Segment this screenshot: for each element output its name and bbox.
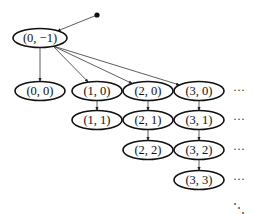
node-label: (0, 0) bbox=[26, 84, 53, 98]
node-label: (1, 0) bbox=[83, 84, 110, 98]
tree-diagram: (0, −1)(0, 0)(1, 0)(2, 0)(3, 0)(1, 1)(2,… bbox=[0, 0, 254, 214]
nodes: (0, −1)(0, 0)(1, 0)(2, 0)(3, 0)(1, 1)(2,… bbox=[13, 12, 224, 189]
edge-start-n0m1 bbox=[57, 15, 97, 31]
node-label: (2, 1) bbox=[134, 113, 161, 127]
diagonal-ellipsis: ⋱ bbox=[233, 201, 245, 214]
node-label: (2, 0) bbox=[134, 84, 161, 98]
tree-node: (3, 1) bbox=[174, 111, 224, 130]
edge-n0m1-n20 bbox=[53, 46, 132, 84]
tree-node: (1, 1) bbox=[72, 111, 122, 130]
node-label: (3, 0) bbox=[185, 84, 212, 98]
node-label: (2, 2) bbox=[134, 143, 161, 157]
tree-node: (2, 0) bbox=[123, 82, 173, 101]
node-label: (1, 1) bbox=[83, 113, 110, 127]
node-label: (0, −1) bbox=[23, 31, 57, 45]
node-label: (3, 1) bbox=[185, 113, 212, 127]
row-ellipsis: ··· bbox=[233, 83, 245, 97]
node-label: (3, 2) bbox=[185, 143, 212, 157]
tree-node: (3, 0) bbox=[174, 82, 224, 101]
row-ellipsis: ··· bbox=[233, 142, 245, 156]
start-point-dot bbox=[94, 12, 99, 17]
tree-node: (0, 0) bbox=[15, 82, 65, 101]
node-label: (3, 3) bbox=[185, 173, 212, 187]
tree-node: (1, 0) bbox=[72, 82, 122, 101]
row-ellipsis: ··· bbox=[233, 172, 245, 186]
row-ellipsis: ··· bbox=[233, 112, 245, 126]
continuation-marks: ············⋱ bbox=[233, 83, 245, 214]
tree-node: (2, 1) bbox=[123, 111, 173, 130]
tree-node: (2, 2) bbox=[123, 141, 173, 160]
tree-node: (3, 3) bbox=[174, 171, 224, 190]
root-node: (0, −1) bbox=[13, 29, 67, 48]
tree-node: (3, 2) bbox=[174, 141, 224, 160]
